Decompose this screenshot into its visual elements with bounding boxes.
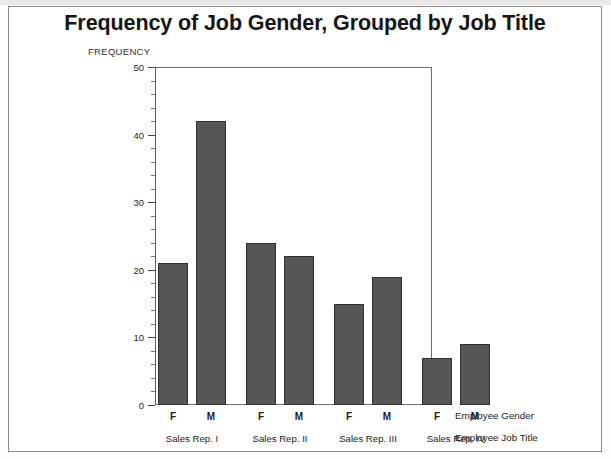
y-tick-minor — [151, 391, 155, 392]
y-axis-title: FREQUENCY — [88, 46, 150, 57]
y-tick-minor — [151, 378, 155, 379]
bar — [422, 358, 452, 405]
bar — [246, 243, 276, 405]
y-tick-minor — [151, 216, 155, 217]
y-tick-major — [148, 270, 155, 271]
bar — [334, 304, 364, 405]
y-tick-minor — [151, 324, 155, 325]
x-tick-label-gender: F — [241, 411, 281, 422]
bar — [284, 256, 314, 405]
y-tick-minor — [151, 229, 155, 230]
y-tick-minor — [151, 351, 155, 352]
x-tick-label-gender: M — [367, 411, 407, 422]
y-axis-line — [155, 67, 156, 405]
chart-title: Frequency of Job Gender, Grouped by Job … — [8, 11, 602, 36]
scan-edge-artifact — [0, 0, 611, 5]
y-tick-major — [148, 67, 155, 68]
y-tick-minor — [151, 162, 155, 163]
y-tick-minor — [151, 243, 155, 244]
y-tick-minor — [151, 189, 155, 190]
y-tick-minor — [151, 175, 155, 176]
y-tick-minor — [151, 81, 155, 82]
x-tick-label-gender: F — [417, 411, 457, 422]
y-tick-label: 50 — [102, 62, 144, 73]
y-tick-minor — [151, 148, 155, 149]
bar — [460, 344, 490, 405]
y-tick-label: 20 — [102, 264, 144, 275]
y-tick-minor — [151, 283, 155, 284]
y-tick-label: 0 — [102, 400, 144, 411]
x-tick-label-gender: F — [329, 411, 369, 422]
y-tick-major — [148, 135, 155, 136]
y-tick-minor — [151, 310, 155, 311]
y-tick-minor — [151, 121, 155, 122]
y-tick-minor — [151, 364, 155, 365]
y-tick-minor — [151, 108, 155, 109]
y-tick-label: 30 — [102, 197, 144, 208]
x-tick-label-gender: F — [153, 411, 193, 422]
y-tick-minor — [151, 94, 155, 95]
y-tick-label: 40 — [102, 129, 144, 140]
y-tick-major — [148, 202, 155, 203]
y-tick-major — [148, 337, 155, 338]
y-tick-major — [148, 405, 155, 406]
bar — [372, 277, 402, 405]
gender-axis-title: Employee Gender — [455, 410, 534, 421]
x-tick-label-gender: M — [191, 411, 231, 422]
chart-page: Frequency of Job Gender, Grouped by Job … — [0, 0, 611, 459]
x-tick-label-gender: M — [279, 411, 319, 422]
y-tick-label: 10 — [102, 332, 144, 343]
bar — [158, 263, 188, 405]
job-title-axis-title: Employee Job Title — [455, 432, 538, 443]
y-tick-minor — [151, 297, 155, 298]
bar — [196, 121, 226, 405]
y-tick-minor — [151, 256, 155, 257]
